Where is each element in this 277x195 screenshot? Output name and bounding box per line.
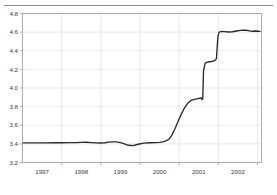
y-tick-label: 3.6 bbox=[9, 121, 18, 128]
y-tick-label: 4.0 bbox=[9, 84, 18, 91]
x-tick-label: 2002 bbox=[231, 168, 245, 175]
y-tick-label: 4.2 bbox=[9, 66, 18, 73]
y-tick-label: 3.4 bbox=[9, 140, 18, 147]
x-tick-label: 2001 bbox=[192, 168, 206, 175]
y-tick-label: 3.2 bbox=[9, 159, 18, 166]
line-chart-canvas: 3.23.43.63.84.04.24.44.64.8 199719981999… bbox=[0, 0, 277, 195]
x-axis-ticks: 199719981999200020012002 bbox=[35, 163, 257, 175]
y-tick-label: 4.4 bbox=[9, 47, 18, 54]
x-tick-label: 1998 bbox=[74, 168, 88, 175]
y-tick-label: 4.8 bbox=[9, 10, 18, 17]
grid-group bbox=[23, 14, 262, 163]
y-tick-label: 3.8 bbox=[9, 103, 18, 110]
y-tick-label: 4.6 bbox=[9, 28, 18, 35]
x-tick-label: 1997 bbox=[35, 168, 49, 175]
x-tick-label: 1999 bbox=[114, 168, 128, 175]
y-axis-ticks: 3.23.43.63.84.04.24.44.64.8 bbox=[9, 10, 22, 166]
x-tick-label: 2000 bbox=[153, 168, 167, 175]
chart-figure: 3.23.43.63.84.04.24.44.64.8 199719981999… bbox=[0, 0, 277, 195]
